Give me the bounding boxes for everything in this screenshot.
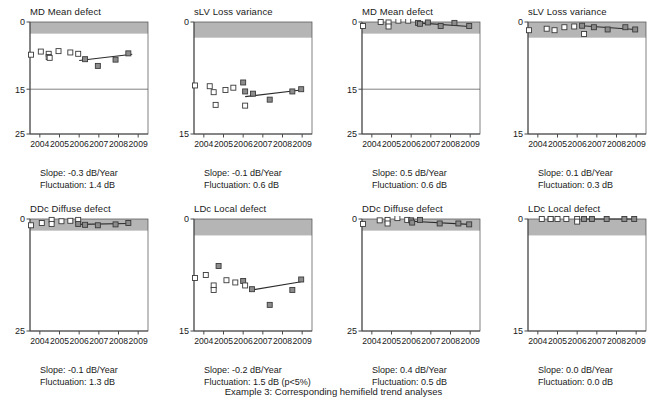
data-point-open: [192, 83, 197, 88]
x-tick-label: 2005: [214, 139, 233, 149]
data-point-open: [526, 28, 531, 33]
trend-analysis-figure: MD Mean defect01525200420052006200720082…: [0, 0, 667, 397]
data-point-open: [378, 20, 383, 25]
data-point-filled: [467, 24, 472, 29]
data-point-filled: [83, 57, 88, 62]
data-point-filled: [95, 223, 100, 228]
x-tick-label: 2006: [568, 336, 587, 346]
y-tick-label: 25: [347, 129, 357, 139]
slope-text: Slope: -0.2 dB/Year: [204, 365, 311, 377]
data-point-filled: [467, 222, 472, 227]
panel-slv-left: sLV Loss variance01520042005200620072008…: [172, 6, 316, 150]
data-point-filled: [241, 80, 246, 85]
x-tick-label: 2004: [362, 336, 381, 346]
data-point-open: [47, 55, 52, 60]
panel-slv-right: sLV Loss variance01520042005200620072008…: [506, 6, 650, 150]
data-point-filled: [589, 217, 594, 222]
data-point-filled: [126, 51, 131, 56]
data-point-open: [28, 223, 33, 228]
x-tick-label: 2009: [627, 139, 646, 149]
stats-md-left: Slope: -0.3 dB/YearFluctuation: 1.4 dB: [40, 168, 118, 191]
data-point-filled: [633, 27, 638, 32]
y-tick-label: 15: [179, 129, 189, 139]
x-tick-label: 2008: [441, 336, 460, 346]
fluctuation-text: Fluctuation: 1.4 dB: [40, 180, 118, 192]
data-point-filled: [216, 264, 221, 269]
plot-area-ldc-left: 015200420052006200720082009: [172, 216, 316, 347]
y-tick-label: 0: [518, 216, 523, 224]
x-tick-label: 2005: [382, 139, 401, 149]
x-tick-label: 2009: [461, 139, 480, 149]
data-point-filled: [76, 221, 81, 226]
slope-text: Slope: -0.1 dB/Year: [204, 168, 282, 180]
panel-title-md-left: MD Mean defect: [30, 6, 152, 17]
plot-area-md-left: 01525200420052006200720082009: [8, 19, 152, 150]
x-tick-label: 2008: [607, 139, 626, 149]
fluctuation-text: Fluctuation: 0.6 dB: [372, 180, 447, 192]
panel-title-ldc-right: LDc Local defect: [528, 203, 650, 214]
stats-slv-right: Slope: 0.1 dB/YearFluctuation: 0.3 dB: [538, 168, 613, 191]
panel-title-ddc-right: DDc Diffuse defect: [362, 203, 484, 214]
data-point-open: [223, 87, 228, 92]
x-tick-label: 2009: [293, 336, 312, 346]
data-point-filled: [604, 217, 609, 222]
data-point-filled: [425, 20, 430, 25]
plot-area-md-right: 01525200420052006200720082009: [340, 19, 484, 150]
x-tick-label: 2006: [234, 139, 253, 149]
x-tick-label: 2006: [70, 139, 89, 149]
x-tick-label: 2004: [30, 336, 49, 346]
x-tick-label: 2008: [273, 139, 292, 149]
x-tick-label: 2004: [30, 139, 49, 149]
data-point-open: [552, 28, 557, 33]
panel-title-slv-right: sLV Loss variance: [528, 6, 650, 17]
data-point-filled: [113, 57, 118, 62]
data-point-filled: [452, 20, 457, 25]
data-point-filled: [267, 97, 272, 102]
y-tick-label: 15: [179, 326, 189, 336]
x-tick-label: 2009: [627, 336, 646, 346]
x-tick-label: 2004: [528, 139, 547, 149]
data-point-filled: [410, 220, 415, 225]
data-point-filled: [299, 87, 304, 92]
stats-ldc-right: Slope: 0.0 dB/YearFluctuation: 0.0 dB: [538, 365, 613, 388]
data-point-open: [360, 24, 365, 29]
y-tick-label: 0: [184, 216, 189, 224]
data-point-filled: [632, 217, 637, 222]
data-point-open: [539, 217, 544, 222]
normal-range-band: [194, 22, 312, 38]
x-tick-label: 2007: [89, 336, 108, 346]
x-tick-label: 2009: [293, 139, 312, 149]
y-tick-label: 0: [184, 19, 189, 27]
data-point-filled: [582, 217, 587, 222]
panel-ldc-left: LDc Local defect015200420052006200720082…: [172, 203, 316, 347]
data-point-filled: [591, 25, 596, 30]
data-point-filled: [113, 222, 118, 227]
x-tick-label: 2007: [89, 139, 108, 149]
data-point-open: [406, 19, 411, 23]
x-tick-label: 2009: [129, 336, 148, 346]
y-tick-label: 15: [347, 85, 357, 95]
data-point-filled: [437, 221, 442, 226]
slope-text: Slope: 0.1 dB/Year: [538, 168, 613, 180]
figure-caption: Example 3: Corresponding hemifield trend…: [0, 386, 667, 397]
x-tick-label: 2005: [50, 336, 69, 346]
x-tick-label: 2007: [421, 336, 440, 346]
stats-ddc-left: Slope: -0.1 dB/YearFluctuation: 1.3 dB: [40, 365, 118, 388]
data-point-open: [572, 24, 577, 29]
x-tick-label: 2008: [109, 139, 128, 149]
data-point-open: [68, 218, 73, 223]
data-point-filled: [438, 24, 443, 29]
y-tick-label: 25: [15, 129, 25, 139]
normal-range-band: [194, 219, 312, 235]
x-tick-label: 2008: [273, 336, 292, 346]
data-point-open: [544, 26, 549, 31]
data-point-filled: [623, 25, 628, 30]
x-tick-label: 2007: [253, 336, 272, 346]
stats-ddc-right: Slope: 0.4 dB/YearFluctuation: 0.5 dB: [372, 365, 447, 388]
x-tick-label: 2008: [607, 336, 626, 346]
y-tick-label: 15: [513, 326, 523, 336]
x-tick-label: 2004: [362, 139, 381, 149]
data-point-open: [38, 49, 43, 54]
data-point-open: [396, 19, 401, 23]
x-tick-label: 2008: [109, 336, 128, 346]
